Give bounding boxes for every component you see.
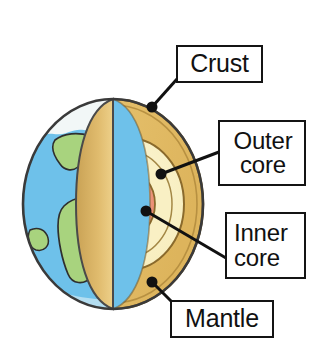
label-outer-core-line-1: Outer: [233, 129, 292, 153]
label-outer-core-line-2: core: [240, 153, 286, 177]
label-outer-core: Outer core: [218, 120, 306, 186]
leader-dot-mantle: [147, 277, 158, 288]
label-mantle-line-1: Mantle: [185, 306, 259, 332]
label-crust-line-1: Crust: [190, 51, 249, 77]
leader-dot-inner-core: [141, 206, 152, 217]
label-inner-core-line-2: core: [234, 246, 280, 270]
globe-group: [18, 96, 203, 311]
label-inner-core-line-1: Inner: [234, 221, 288, 245]
label-crust: Crust: [176, 45, 263, 83]
leader-dot-outer-core: [156, 169, 167, 180]
leader-line-crust: [152, 79, 177, 107]
leader-dot-crust: [147, 102, 158, 113]
earth-interior-diagram: Crust Outer core Inner core Mantle: [0, 0, 324, 354]
label-inner-core: Inner core: [225, 212, 306, 279]
label-mantle: Mantle: [170, 300, 274, 338]
